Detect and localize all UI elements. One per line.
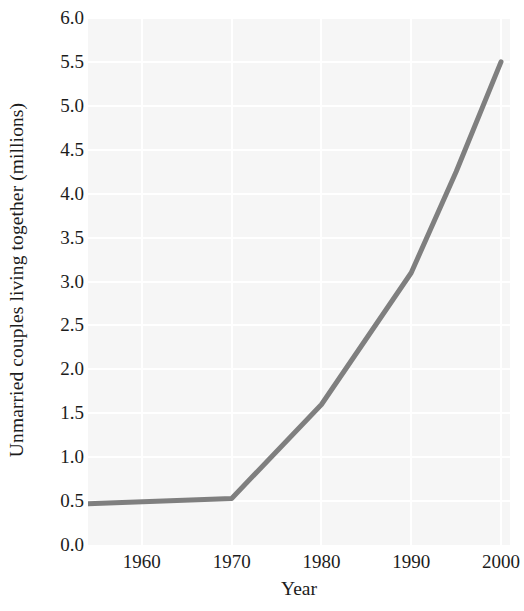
y-axis-tick-label: 0.5 [38,491,84,510]
y-axis-tick-label: 1.5 [38,403,84,422]
y-axis-tick-label: 2.5 [38,315,84,334]
x-axis-tick-labels: 19601970198019902000 [0,551,516,577]
y-axis-tick-label: 3.5 [38,228,84,247]
y-axis-tick-label: 5.0 [38,96,84,115]
x-axis-tick-label: 1970 [197,551,267,573]
y-axis-tick-label: 2.0 [38,359,84,378]
x-axis-tick-label: 1990 [376,551,446,573]
x-axis-tick-label: 1980 [286,551,356,573]
y-axis-tick-label: 6.0 [38,8,84,27]
x-axis-tick-label: 1960 [107,551,177,573]
y-axis-tick-label: 4.5 [38,140,84,159]
x-axis-title: Year [88,578,510,600]
y-axis-tick-label: 1.0 [38,447,84,466]
plot-area [88,18,510,545]
data-series-line [88,18,510,545]
y-axis-tick-label: 4.0 [38,184,84,203]
y-axis-title: Unmarried couples living together (milli… [6,103,28,457]
y-axis-tick-label: 3.0 [38,272,84,291]
y-axis-tick-labels: 0.00.51.01.52.02.53.03.54.04.55.05.56.0 [34,0,84,611]
x-axis-tick-label: 2000 [466,551,524,573]
y-axis-tick-label: 5.5 [38,52,84,71]
y-axis-title-container: Unmarried couples living together (milli… [0,0,34,560]
